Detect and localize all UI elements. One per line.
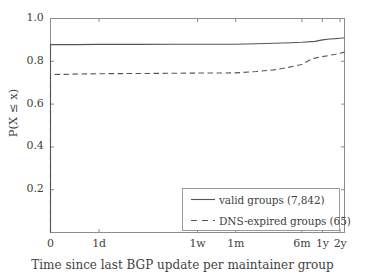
legend-item-valid-groups: valid groups (7,842) — [183, 189, 339, 210]
legend-item-dns-expired-groups: DNS-expired groups (65) — [183, 210, 339, 231]
x-tick-label: 1m — [221, 237, 251, 250]
x-tick-label: 2y — [325, 237, 355, 250]
x-axis-title: Time since last BGP update per maintaine… — [0, 258, 365, 272]
chart-figure: 1.00.80.60.40.2 01d1w1m6m1y2y P(X ≤ x) T… — [0, 0, 365, 279]
legend-key-dashed-line-icon — [189, 210, 219, 231]
y-tick-label: 1.0 — [14, 11, 44, 24]
chart-legend: valid groups (7,842) DNS-expired groups … — [182, 188, 340, 231]
y-tick-label: 0.2 — [14, 182, 44, 195]
legend-label: valid groups (7,842) — [219, 194, 325, 206]
y-tick-label: 0.8 — [14, 54, 44, 67]
x-tick-label: 0 — [36, 237, 66, 250]
x-tick-label: 1d — [84, 237, 114, 250]
x-tick-label: 1w — [183, 237, 213, 250]
legend-key-solid-line-icon — [189, 189, 219, 210]
legend-label: DNS-expired groups (65) — [219, 215, 351, 227]
y-axis-title: P(X ≤ x) — [6, 68, 20, 158]
